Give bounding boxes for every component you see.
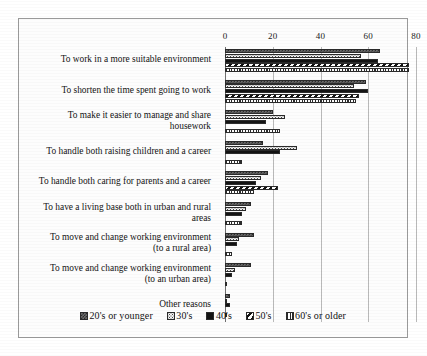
- bar-group: [225, 233, 427, 259]
- bar-3: [225, 186, 278, 190]
- bar-1: [225, 115, 285, 119]
- bar-1: [225, 146, 297, 150]
- category-row: To shorten the time spent going to work: [19, 78, 407, 108]
- category-label: To move and change working environment (…: [25, 232, 211, 254]
- category-label: To work in a more suitable environment: [25, 54, 211, 65]
- category-label: Other reasons: [25, 299, 211, 310]
- bar-group: [225, 141, 427, 167]
- legend-swatch-icon: [80, 312, 88, 320]
- bar-0: [225, 141, 263, 145]
- bar-1: [225, 207, 246, 211]
- bar-0: [225, 49, 380, 53]
- bar-2: [225, 242, 237, 246]
- bar-group: [225, 202, 427, 228]
- legend-swatch-icon: [206, 312, 214, 320]
- bar-group: [225, 110, 427, 136]
- bar-0: [225, 171, 268, 175]
- category-row: To handle both caring for parents and a …: [19, 169, 407, 199]
- legend-item[interactable]: 20's or younger: [80, 310, 153, 321]
- category-label: To handle both raising children and a ca…: [25, 146, 211, 157]
- legend-label: 30's: [176, 310, 192, 321]
- legend-item[interactable]: 60's or older: [286, 310, 346, 321]
- bar-3: [225, 94, 359, 98]
- bar-0: [225, 110, 273, 114]
- bar-0: [225, 80, 366, 84]
- legend-item[interactable]: 30's: [167, 310, 193, 321]
- bar-3: [225, 63, 409, 67]
- bar-2: [225, 89, 368, 93]
- chart-legend: 20's or younger30's40's50's60's or older: [19, 310, 407, 321]
- legend-swatch-icon: [286, 312, 294, 320]
- figure-border: 020406080 To work in a more suitable env…: [18, 18, 408, 338]
- bar-1: [225, 176, 261, 180]
- bar-4: [225, 252, 232, 256]
- category-row: To move and change working environment (…: [19, 261, 407, 291]
- category-row: To make it easier to manage and share ho…: [19, 108, 407, 138]
- bar-1: [225, 54, 361, 58]
- bar-2: [225, 181, 256, 185]
- legend-item[interactable]: 50's: [246, 310, 272, 321]
- category-label: To make it easier to manage and share ho…: [25, 110, 211, 132]
- bar-4: [225, 160, 242, 164]
- bar-1: [225, 268, 235, 272]
- x-tick-label: 40: [316, 31, 325, 41]
- bar-1: [225, 237, 239, 241]
- bar-2: [225, 59, 378, 63]
- chart-figure: 020406080 To work in a more suitable env…: [0, 0, 427, 356]
- bar-4: [225, 99, 356, 103]
- legend-label: 50's: [256, 310, 272, 321]
- bar-4: [225, 282, 227, 286]
- bar-2: [225, 303, 230, 307]
- legend-swatch-icon: [246, 312, 254, 320]
- bar-0: [225, 294, 230, 298]
- bar-4: [225, 190, 254, 194]
- category-row: To handle both raising children and a ca…: [19, 139, 407, 169]
- bar-1: [225, 84, 354, 88]
- category-label: To handle both caring for parents and a …: [25, 176, 211, 187]
- bar-0: [225, 202, 251, 206]
- bar-group: [225, 80, 427, 106]
- bar-0: [225, 233, 254, 237]
- x-tick-label: 20: [268, 31, 277, 41]
- legend-swatch-icon: [167, 312, 175, 320]
- legend-label: 60's or older: [295, 310, 346, 321]
- bar-group: [225, 263, 427, 289]
- category-label: To move and change working environment (…: [25, 263, 211, 285]
- x-tick-label: 0: [223, 31, 228, 41]
- category-label: To shorten the time spent going to work: [25, 85, 211, 96]
- x-tick-label: 80: [411, 31, 420, 41]
- category-row: To move and change working environment (…: [19, 231, 407, 261]
- bar-group: [225, 49, 427, 75]
- bar-1: [225, 299, 227, 303]
- bar-4: [225, 68, 409, 72]
- category-row: To have a living base both in urban and …: [19, 200, 407, 230]
- legend-label: 40's: [216, 310, 232, 321]
- category-label: To have a living base both in urban and …: [25, 202, 211, 224]
- bar-4: [225, 221, 242, 225]
- bar-4: [225, 129, 280, 133]
- bar-2: [225, 150, 280, 154]
- x-tick-label: 60: [364, 31, 373, 41]
- bar-group: [225, 171, 427, 197]
- bar-2: [225, 120, 266, 124]
- bar-2: [225, 212, 242, 216]
- legend-item[interactable]: 40's: [206, 310, 232, 321]
- bar-2: [225, 273, 232, 277]
- legend-label: 20's or younger: [90, 310, 153, 321]
- bar-0: [225, 263, 251, 267]
- category-row: To work in a more suitable environment: [19, 47, 407, 77]
